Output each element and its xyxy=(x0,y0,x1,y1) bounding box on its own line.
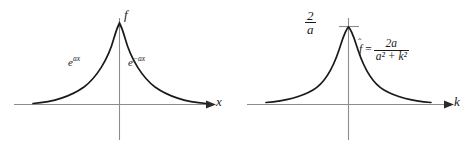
transform-formula: ˆf = 2a a² + k² xyxy=(359,38,409,62)
formula-denominator: a² + k² xyxy=(374,51,409,63)
peak-value-fraction: 2 a xyxy=(305,9,316,36)
transform-panel: 2 a ˆf = 2a a² + k² k xyxy=(233,0,467,162)
branch-label-left-exponent: ax xyxy=(73,54,80,63)
formula-equals: = xyxy=(365,44,372,56)
branch-label-right: e−ax xyxy=(128,57,145,68)
formula-fraction: 2a a² + k² xyxy=(374,38,409,62)
peak-value-numerator: 2 xyxy=(305,9,316,23)
fourier-transform-figure: f eax e−ax x 2 a ˆf = xyxy=(0,0,467,162)
x-axis-label: x xyxy=(216,95,222,108)
signal-plot xyxy=(0,0,234,162)
transform-plot xyxy=(233,0,467,162)
peak-value-label: 2 a xyxy=(305,9,316,36)
branch-label-left: eax xyxy=(68,57,80,68)
formula-lhs-accent: ˆ xyxy=(358,38,361,48)
k-axis-label: k xyxy=(454,95,460,108)
peak-value-denominator: a xyxy=(305,23,316,36)
formula-numerator: 2a xyxy=(374,38,409,51)
branch-label-right-exponent: −ax xyxy=(133,54,145,63)
curve-label-f: f xyxy=(124,8,128,21)
signal-panel: f eax e−ax x xyxy=(0,0,234,162)
formula-lhs: ˆf xyxy=(359,44,363,56)
